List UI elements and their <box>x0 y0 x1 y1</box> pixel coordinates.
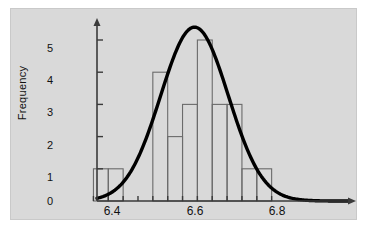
figure-panel: Frequency 5 4 3 2 1 0 6.4 6.6 6.8 <box>10 8 357 220</box>
histogram-bar <box>197 40 212 201</box>
histogram-plot <box>11 9 356 219</box>
histogram-bar <box>212 104 227 201</box>
histogram-bar <box>168 137 183 201</box>
normal-curve-line <box>97 27 349 201</box>
axis-arrowhead <box>94 18 101 26</box>
histogram-bars <box>93 40 271 201</box>
axis-arrowhead <box>348 198 356 205</box>
axis-lines <box>93 18 356 205</box>
histogram-bar <box>183 104 198 201</box>
histogram-bar <box>242 169 257 201</box>
